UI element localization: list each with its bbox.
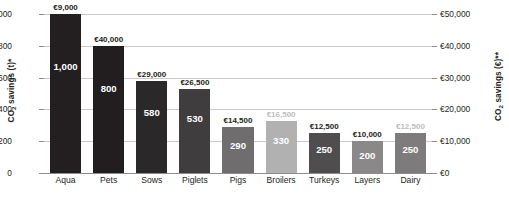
bar-slot: €12,500250 [389, 14, 432, 173]
bar-slot: €40,000800 [87, 14, 130, 173]
bar-value-label: 330 [273, 136, 289, 146]
bar-chart: CO2 savings (t)* CO2 savings (€)** 02004… [0, 0, 509, 199]
x-axis-label-aqua: Aqua [44, 176, 87, 185]
x-axis-category-labels: AquaPetsSowsPigletsPigsBroilersTurkeysLa… [44, 176, 432, 185]
y-axis-right-tick-mark [432, 173, 437, 174]
y-axis-left-tick-label: 0 [0, 169, 12, 177]
bar-slot: €10,000200 [346, 14, 389, 173]
bar-value-label: 530 [187, 114, 203, 124]
bar-value-label: 290 [230, 141, 246, 151]
y-axis-left-tick-label: 1,000 [0, 10, 12, 18]
bar-euro-label: €26,500 [180, 79, 209, 87]
bar-value-label: 200 [359, 151, 375, 161]
y-axis-right-tick-label: €40,000 [440, 42, 509, 50]
bar-slot: €26,500530 [173, 14, 216, 173]
bar-slot: €16,500330 [260, 14, 303, 173]
y-axis-right-tick-mark [432, 109, 437, 110]
bar-layers[interactable]: €10,000200 [352, 141, 383, 173]
bar-broilers[interactable]: €16,500330 [266, 121, 297, 173]
bar-slot: €14,500290 [216, 14, 259, 173]
x-axis-label-sows: Sows [130, 176, 173, 185]
y-axis-right-tick-mark [432, 78, 437, 79]
bar-euro-label: €10,000 [353, 131, 382, 139]
plot-area: 02004006008001,000 €0€10,000€20,000€30,0… [44, 14, 432, 173]
bar-value-label: 250 [316, 145, 332, 155]
y-axis-left-tick-label: 400 [0, 105, 12, 113]
y-axis-right-tick-label: €30,000 [440, 74, 509, 82]
y-axis-right-tick-label: €0 [440, 169, 509, 177]
bar-slot: €9,0001,000 [44, 14, 87, 173]
bar-slot: €12,500250 [303, 14, 346, 173]
y-axis-left-tick-mark [39, 173, 44, 174]
y-axis-right-tick-mark [432, 14, 437, 15]
bar-value-label: 580 [144, 108, 160, 118]
bar-euro-label: €16,500 [267, 111, 296, 119]
bar-slot: €29,000580 [130, 14, 173, 173]
y-axis-right-tick-mark [432, 46, 437, 47]
bar-pets[interactable]: €40,000800 [93, 46, 124, 173]
bar-euro-label: €12,500 [310, 123, 339, 131]
y-axis-left-title: CO2 savings (t)* [7, 44, 16, 138]
x-axis-label-layers: Layers [346, 176, 389, 185]
bar-value-label: 800 [101, 84, 117, 94]
y-axis-right-tick-label: €50,000 [440, 10, 509, 18]
bar-value-label: 1,000 [54, 62, 78, 72]
bar-pigs[interactable]: €14,500290 [222, 127, 253, 173]
x-axis-label-pigs: Pigs [216, 176, 259, 185]
y-axis-left-tick-label: 800 [0, 42, 12, 50]
bar-euro-label: €9,000 [53, 4, 77, 12]
bar-sows[interactable]: €29,000580 [136, 81, 167, 173]
x-axis-label-piglets: Piglets [173, 176, 216, 185]
bar-euro-label: €14,500 [224, 117, 253, 125]
bar-value-label: 250 [402, 145, 418, 155]
x-axis-label-pets: Pets [87, 176, 130, 185]
bar-turkeys[interactable]: €12,500250 [309, 133, 340, 173]
bar-euro-label: €29,000 [137, 71, 166, 79]
bar-aqua[interactable]: €9,0001,000 [50, 14, 81, 173]
y-axis-right-title: CO2 savings (€)** [494, 40, 503, 134]
bar-piglets[interactable]: €26,500530 [179, 89, 210, 173]
y-axis-right-tick-mark [432, 141, 437, 142]
y-axis-right-tick-label: €20,000 [440, 105, 509, 113]
bar-euro-label: €40,000 [94, 36, 123, 44]
bar-series: €9,0001,000€40,000800€29,000580€26,50053… [44, 14, 432, 173]
y-axis-left-tick-label: 600 [0, 74, 12, 82]
gridline [44, 173, 432, 174]
y-axis-left-tick-label: 200 [0, 137, 12, 145]
bar-euro-label: €12,500 [396, 123, 425, 131]
x-axis-label-dairy: Dairy [389, 176, 432, 185]
x-axis-label-turkeys: Turkeys [303, 176, 346, 185]
x-axis-label-broilers: Broilers [260, 176, 303, 185]
bar-dairy[interactable]: €12,500250 [395, 133, 426, 173]
y-axis-right-tick-label: €10,000 [440, 137, 509, 145]
